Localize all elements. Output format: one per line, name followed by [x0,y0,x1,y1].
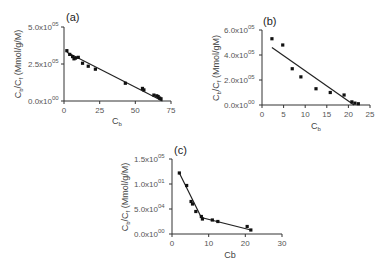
x-ticks-a: 0 25 50 75 [62,101,176,115]
fit-line [67,52,163,101]
y-tick-label: 5.0x1005 [28,21,59,32]
svg-text:50: 50 [131,106,140,115]
data-point [291,67,294,70]
panel-label-a: (a) [66,11,79,23]
svg-text:5.0x1004: 5.0x1004 [134,203,165,214]
data-point [270,37,273,40]
data-point [77,56,80,59]
svg-text:20: 20 [344,110,353,119]
plot-area-a [65,49,162,101]
data-point [314,87,317,90]
data-point [201,217,204,220]
data-point [357,102,360,105]
svg-text:0: 0 [170,239,175,248]
svg-text:0.0x1000: 0.0x1000 [224,99,255,110]
x-ticks-c: 0 10 20 30 [170,234,287,248]
panel-label-c: (c) [174,144,187,156]
plot-area-b [270,37,360,105]
plot-area-c [178,171,253,231]
data-point [249,228,252,231]
data-point [299,75,302,78]
data-point [350,100,353,103]
svg-text:1.5x1005: 1.5x1005 [134,153,165,164]
data-point [65,49,68,52]
y-axis-label-c: Cb/Cf (Mmol/g/M) [120,163,131,232]
y-axis-label-a: Cb/Cf (Mmol/g/M) [13,30,24,99]
chart-a: (a) 0.0x1000 2.5x1005 5.0x1005 0 25 50 7… [13,11,176,127]
svg-text:25: 25 [366,110,375,119]
data-point [185,184,188,187]
data-point [211,218,214,221]
y-ticks-b: 0.0x1000 2.0x1005 4.0x1005 6.0x1005 [224,24,262,110]
y-tick-label: 2.5x1005 [28,58,59,69]
data-point [178,171,181,174]
chart-b: (b) 0.0x1000 2.0x1005 4.0x1005 6.0x1005 … [211,15,375,132]
data-point [81,62,84,65]
y-tick-label: 0.0x1000 [28,95,59,106]
panel-label-b: (b) [263,15,276,27]
svg-text:5: 5 [281,110,286,119]
svg-text:20: 20 [241,239,250,248]
y-ticks-a: 0.0x1000 2.5x1005 5.0x1005 [28,21,64,106]
data-point [142,88,145,91]
y-axis-label-b: Cb/Cf (Mmol/gM) [211,35,222,101]
data-point [124,82,127,85]
data-point [191,202,194,205]
data-point [342,93,345,96]
fit-line [272,48,354,106]
svg-text:30: 30 [278,239,287,248]
data-point [329,91,332,94]
data-point [281,43,284,46]
svg-text:0.0x1000: 0.0x1000 [134,228,165,239]
svg-text:1.0x1001: 1.0x1001 [134,178,165,189]
svg-text:0: 0 [62,106,67,115]
data-point [68,53,71,56]
data-point [353,102,356,105]
figure: (a) 0.0x1000 2.5x1005 5.0x1005 0 25 50 7… [0,0,392,267]
svg-text:75: 75 [167,106,176,115]
data-point [159,97,162,100]
data-point [152,93,155,96]
chart-c: (c) 0.0x1000 5.0x1004 1.0x1001 1.5x1005 … [120,144,287,260]
svg-text:0: 0 [260,110,265,119]
svg-text:6.0x1005: 6.0x1005 [224,24,255,35]
data-point [194,210,197,213]
data-point [74,56,77,59]
data-point [216,220,219,223]
y-ticks-c: 0.0x1000 5.0x1004 1.0x1001 1.5x1005 [134,153,172,239]
x-axis-label-c: Cb [224,250,236,260]
x-axis-label-a: Cb [112,116,123,127]
svg-text:4.0x1005: 4.0x1005 [224,49,255,60]
data-point [94,68,97,71]
svg-text:2.0x1005: 2.0x1005 [224,74,255,85]
x-axis-label-b: Cb [311,121,322,132]
svg-text:15: 15 [322,110,331,119]
data-point [87,65,90,68]
svg-text:10: 10 [204,239,213,248]
data-point [246,225,249,228]
svg-text:10: 10 [301,110,310,119]
x-ticks-b: 0 5 10 15 20 25 [260,105,375,119]
svg-text:25: 25 [95,106,104,115]
